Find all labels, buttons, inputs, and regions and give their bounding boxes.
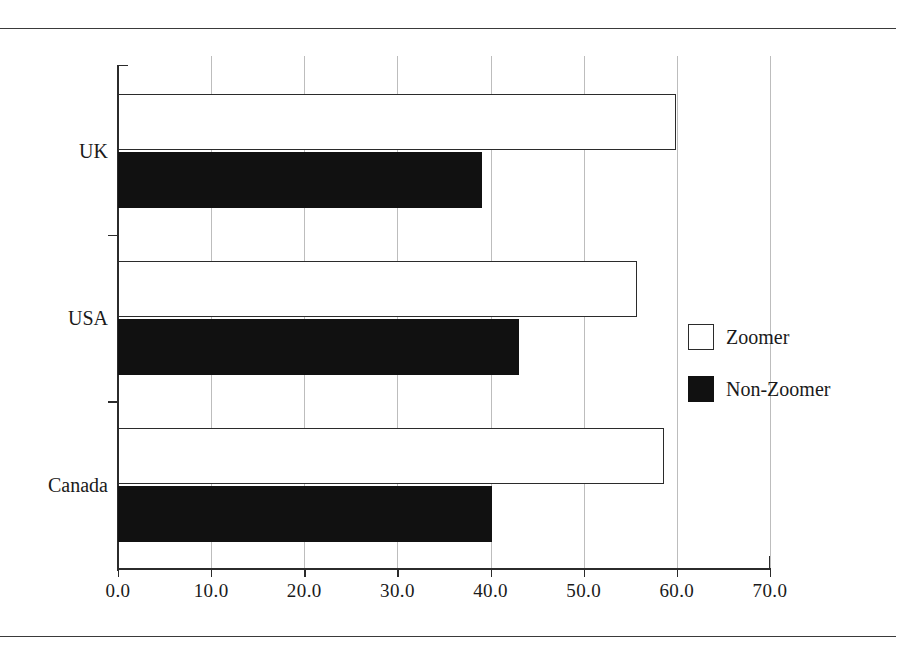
gridline-top-stub-40.0: [491, 56, 492, 68]
bar-usa-zoomer: [118, 261, 637, 317]
x-tick-label-20.0: 20.0: [287, 580, 322, 602]
gridline-top-stub-30.0: [397, 56, 398, 68]
x-tick-50.0: [584, 568, 585, 577]
legend-item-non-zoomer[interactable]: Non-Zoomer: [688, 370, 888, 408]
x-tick-0.0: [118, 568, 119, 577]
page-rule-bottom: [0, 636, 896, 637]
x-tick-label-50.0: 50.0: [566, 580, 601, 602]
y-tick-2: [108, 401, 118, 402]
x-tick-30.0: [397, 568, 398, 577]
bar-uk-non-zoomer: [118, 152, 482, 208]
gridline-top-stub-60.0: [677, 56, 678, 68]
gridline-60.0: [677, 68, 678, 568]
x-tick-label-70.0: 70.0: [753, 580, 788, 602]
x-tick-70.0: [770, 568, 771, 577]
bar-canada-non-zoomer: [118, 486, 492, 542]
x-tick-10.0: [211, 568, 212, 577]
bar-uk-zoomer: [118, 94, 676, 150]
bar-usa-non-zoomer: [118, 319, 519, 375]
page-rule-top: [0, 28, 896, 29]
x-tick-40.0: [491, 568, 492, 577]
open-square-swatch-icon: [688, 324, 714, 350]
plot-area: 0.010.020.030.040.050.060.070.0 UKUSACan…: [118, 68, 770, 568]
gridline-top-stub-10.0: [211, 56, 212, 68]
x-tick-label-10.0: 10.0: [194, 580, 229, 602]
x-tick-60.0: [677, 568, 678, 577]
figure: 0.010.020.030.040.050.060.070.0 UKUSACan…: [0, 0, 903, 662]
y-tick-1: [108, 235, 118, 236]
gridline-top-stub-20.0: [304, 56, 305, 68]
bar-canada-zoomer: [118, 428, 664, 484]
x-tick-20.0: [304, 568, 305, 577]
y-axis-top-cap: [118, 65, 128, 66]
x-tick-label-40.0: 40.0: [473, 580, 508, 602]
legend-item-zoomer[interactable]: Zoomer: [688, 318, 888, 356]
legend-label-non-zoomer: Non-Zoomer: [726, 378, 830, 401]
x-axis-spine: [117, 568, 771, 570]
gridline-top-stub-70.0: [770, 56, 771, 68]
x-tick-label-60.0: 60.0: [659, 580, 694, 602]
y-category-label-uk: UK: [79, 140, 108, 163]
y-category-label-usa: USA: [68, 307, 108, 330]
filled-square-swatch-icon: [688, 376, 714, 402]
x-tick-label-30.0: 30.0: [380, 580, 415, 602]
gridline-top-stub-50.0: [584, 56, 585, 68]
x-tick-label-0.0: 0.0: [106, 580, 131, 602]
y-category-label-canada: Canada: [48, 473, 108, 496]
legend: ZoomerNon-Zoomer: [688, 318, 888, 422]
legend-label-zoomer: Zoomer: [726, 326, 789, 349]
